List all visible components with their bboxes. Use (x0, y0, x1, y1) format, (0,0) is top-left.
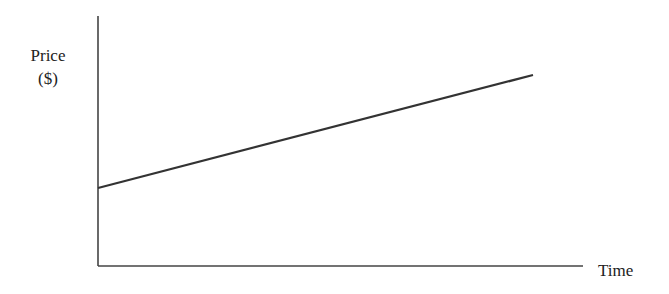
x-axis-label: Time (598, 261, 633, 280)
y-axis-label-line1: Price (31, 46, 66, 65)
y-axis-label-line2: ($) (38, 69, 58, 88)
price-line (98, 75, 533, 188)
chart: Price ($) Time (0, 0, 669, 294)
